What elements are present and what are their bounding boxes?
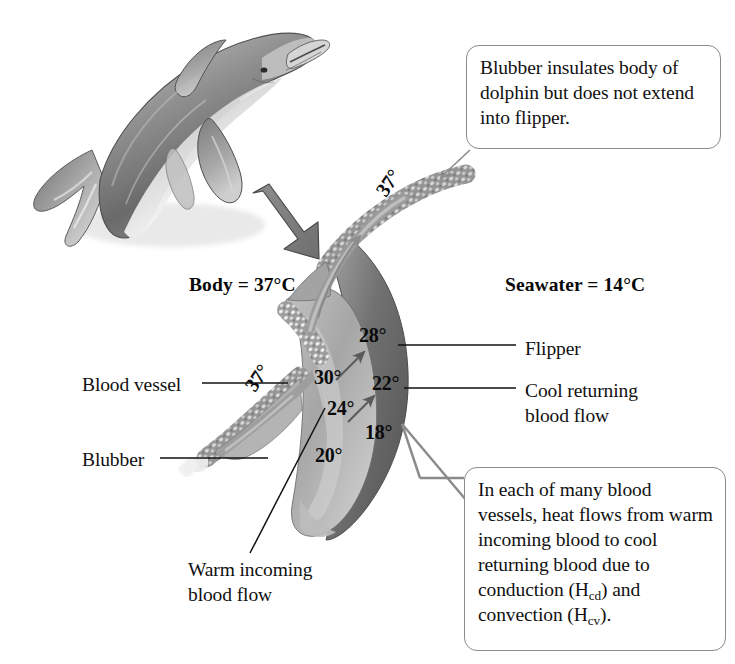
temperature-label-30: 30° — [314, 366, 341, 389]
heat-note-subscript-cd: cd — [589, 588, 601, 603]
callout-blubber-text: Blubber insulates body of dolphin but do… — [480, 57, 694, 128]
tail-heat-callout — [402, 424, 466, 500]
callout-blubber-note: Blubber insulates body of dolphin but do… — [466, 45, 721, 149]
temperature-label-28: 28° — [359, 324, 386, 347]
heat-note-line-6a: convection (H — [478, 604, 588, 625]
temperature-label-24: 24° — [327, 397, 354, 420]
label-blood-vessel: Blood vessel — [82, 373, 181, 398]
temperature-label-22: 22° — [372, 372, 399, 395]
temperature-label-20: 20° — [315, 444, 342, 467]
heat-note-line-1: In each of many blood — [478, 479, 651, 500]
temperature-label-18: 18° — [365, 421, 392, 444]
body-temperature-heading: Body = 37°C — [189, 274, 296, 296]
label-warm-incoming-blood-flow: Warm incoming blood flow — [188, 558, 312, 608]
heat-note-line-5c: ) and — [601, 579, 640, 600]
callout-heat-transfer-note: In each of many blood vessels, heat flow… — [464, 467, 726, 651]
seawater-temperature-heading: Seawater = 14°C — [505, 274, 645, 296]
label-blubber: Blubber — [82, 448, 144, 473]
heat-note-line-2: vessels, heat flows from — [478, 504, 664, 525]
heat-note-line-6c: ). — [600, 604, 611, 625]
dolphin-heat-exchange-figure: Body = 37°C Seawater = 14°C 37° 37° 28° … — [0, 0, 735, 664]
label-flipper: Flipper — [525, 337, 581, 362]
label-cool-returning-blood-flow: Cool returning blood flow — [525, 379, 638, 429]
heat-note-subscript-cv: cv — [588, 613, 600, 628]
